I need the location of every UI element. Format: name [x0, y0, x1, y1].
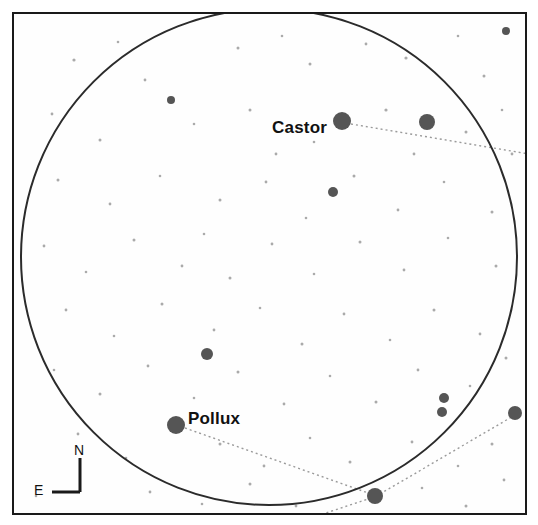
star-label-pollux: Pollux	[188, 409, 240, 429]
bright-star	[502, 27, 510, 35]
faint-star	[117, 41, 120, 44]
faint-star	[353, 175, 356, 178]
bright-star-layer	[167, 27, 522, 504]
faint-star	[309, 63, 312, 66]
bright-star	[367, 488, 383, 504]
faint-star	[259, 307, 262, 310]
faint-star	[229, 277, 232, 280]
faint-star	[421, 487, 424, 490]
faint-star	[389, 339, 392, 342]
faint-star	[359, 241, 362, 244]
faint-star	[99, 393, 102, 396]
faint-star	[375, 401, 378, 404]
bright-star	[508, 406, 522, 420]
faint-star	[443, 181, 446, 184]
faint-star	[404, 56, 407, 59]
faint-star	[457, 35, 460, 38]
faint-star	[465, 505, 468, 508]
faint-star	[479, 333, 482, 336]
faint-star	[219, 443, 222, 446]
faint-star	[249, 483, 252, 486]
faint-star	[384, 108, 387, 111]
faint-star	[161, 303, 164, 306]
field-of-view-circle	[21, 14, 517, 505]
constellation-line	[314, 498, 371, 513]
faint-star	[305, 217, 308, 220]
faint-star	[483, 75, 486, 78]
faint-star	[403, 269, 406, 272]
faint-star	[417, 369, 420, 372]
faint-star	[281, 35, 284, 38]
faint-star	[265, 181, 268, 184]
constellation-line	[351, 124, 525, 154]
faint-star	[397, 209, 400, 212]
faint-star	[329, 375, 332, 378]
faint-star	[72, 58, 75, 61]
constellation-line-layer	[185, 124, 525, 513]
faint-star	[295, 505, 298, 508]
star-chart-root: Castor Pollux N E	[0, 0, 538, 525]
faint-star	[365, 43, 368, 46]
faint-star	[181, 265, 184, 268]
constellation-line	[185, 428, 371, 494]
faint-star	[203, 233, 206, 236]
bright-star	[167, 416, 185, 434]
faint-star	[349, 461, 352, 464]
faint-star	[309, 437, 312, 440]
faint-star	[495, 265, 498, 268]
bright-star	[419, 114, 435, 130]
faint-star	[343, 313, 346, 316]
faint-star	[249, 109, 252, 112]
faint-star	[505, 357, 508, 360]
faint-star	[465, 131, 468, 134]
bright-star	[437, 407, 447, 417]
faint-star	[447, 237, 450, 240]
faint-star	[113, 335, 116, 338]
faint-star	[501, 109, 504, 112]
faint-star	[283, 403, 286, 406]
compass-rose: N E	[42, 446, 112, 508]
compass-east-label: E	[34, 482, 43, 498]
field-of-view-circle-layer	[21, 14, 517, 505]
faint-star	[201, 503, 204, 506]
sky-field-frame: Castor Pollux N E	[12, 12, 527, 515]
star-label-castor: Castor	[272, 118, 327, 138]
faint-star	[469, 385, 472, 388]
constellation-line	[380, 415, 515, 494]
faint-star	[57, 179, 60, 182]
faint-star	[51, 113, 54, 116]
faint-star	[109, 203, 112, 206]
bright-star	[333, 112, 351, 130]
faint-star	[237, 47, 240, 50]
bright-star	[328, 187, 338, 197]
faint-star-layer	[35, 35, 514, 508]
faint-star	[271, 243, 274, 246]
faint-star	[413, 153, 416, 156]
faint-star	[313, 273, 316, 276]
faint-star	[511, 153, 514, 156]
faint-star	[237, 371, 240, 374]
faint-star	[193, 123, 196, 126]
bright-star	[167, 96, 175, 104]
faint-star	[147, 365, 150, 368]
faint-star	[275, 153, 278, 156]
faint-star	[133, 239, 136, 242]
faint-star	[263, 465, 266, 468]
faint-star	[213, 329, 216, 332]
sky-canvas	[14, 14, 525, 513]
faint-star	[144, 79, 147, 82]
faint-star	[219, 199, 222, 202]
faint-star	[433, 309, 436, 312]
compass-north-label: N	[74, 442, 84, 458]
bright-star	[439, 393, 449, 403]
faint-star	[159, 175, 162, 178]
bright-star	[201, 348, 213, 360]
faint-star	[99, 139, 102, 142]
faint-star	[193, 397, 196, 400]
faint-star	[503, 479, 506, 482]
faint-star	[457, 465, 460, 468]
faint-star	[491, 211, 494, 214]
faint-star	[77, 433, 80, 436]
faint-star	[43, 245, 46, 248]
faint-star	[65, 309, 68, 312]
